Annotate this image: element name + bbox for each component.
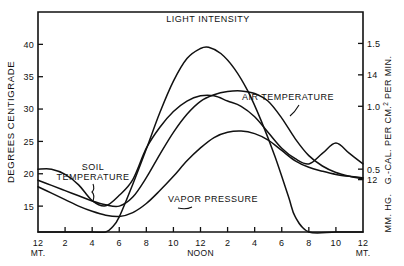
annotation-vapor-pressure: VAPOR PRESSURE — [168, 194, 258, 204]
svg-text:G.-CAL. PER CM.2 PER MIN.: G.-CAL. PER CM.2 PER MIN. — [382, 56, 393, 185]
svg-text:4: 4 — [90, 238, 95, 248]
svg-text:0.5: 0.5 — [367, 165, 380, 175]
annotation-air-temperature: AIR TEMPERATURE — [242, 92, 334, 102]
svg-text:20: 20 — [23, 169, 34, 179]
svg-text:12: 12 — [33, 238, 44, 248]
svg-text:6: 6 — [117, 238, 122, 248]
chart-figure: 12MT.24681012NOON24681012MT.152025303540… — [0, 0, 404, 266]
svg-text:14: 14 — [367, 70, 378, 80]
svg-text:10: 10 — [331, 238, 342, 248]
svg-text:30: 30 — [23, 104, 34, 114]
y-axis-label-left: DEGREES CENTIGRADE — [5, 61, 16, 183]
svg-text:12: 12 — [358, 238, 369, 248]
svg-text:1.0: 1.0 — [367, 102, 380, 112]
y-axis-label-right-lower: MM. HG. — [383, 194, 393, 233]
svg-text:25: 25 — [23, 137, 34, 147]
chart-background — [0, 0, 404, 266]
svg-text:40: 40 — [23, 40, 34, 50]
svg-text:10: 10 — [168, 238, 179, 248]
svg-text:6: 6 — [279, 238, 284, 248]
svg-text:12: 12 — [195, 238, 206, 248]
svg-text:15: 15 — [23, 202, 34, 212]
svg-text:8: 8 — [306, 238, 311, 248]
annotation-soil-temperature-line1: SOIL — [82, 162, 105, 172]
y-axis-label-right-upper: G.-CAL. PER CM.2 PER MIN. — [382, 56, 393, 185]
svg-text:8: 8 — [144, 238, 149, 248]
svg-text:4: 4 — [252, 238, 257, 248]
svg-text:12: 12 — [367, 175, 378, 185]
svg-text:1.5: 1.5 — [367, 39, 380, 49]
svg-text:MT.: MT. — [31, 248, 46, 258]
svg-text:MT.: MT. — [356, 248, 371, 258]
svg-text:35: 35 — [23, 72, 34, 82]
annotation-soil-temperature-line2: TEMPERATURE — [57, 172, 130, 182]
svg-text:2: 2 — [62, 238, 67, 248]
svg-text:NOON: NOON — [187, 248, 214, 258]
svg-text:2: 2 — [225, 238, 230, 248]
annotation-light-intensity: LIGHT INTENSITY — [166, 14, 249, 24]
diurnal-variation-chart: 12MT.24681012NOON24681012MT.152025303540… — [0, 0, 404, 266]
